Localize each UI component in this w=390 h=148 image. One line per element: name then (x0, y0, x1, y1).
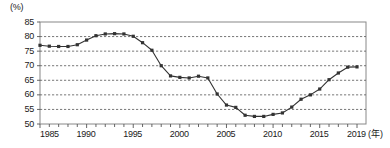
x-axis-label-2005: 2005 (216, 130, 235, 139)
plot-frame (40, 22, 366, 124)
x-axis-label-1985: 1985 (40, 130, 59, 139)
data-point (346, 66, 349, 69)
x-axis-label-2015: 2015 (310, 130, 329, 139)
y-axis-label-50: 50 (14, 120, 34, 129)
x-axis-label-2019: 2019 (347, 130, 366, 139)
data-point (169, 74, 172, 77)
x-axis-unit-label: (年) (368, 130, 383, 139)
data-point (318, 87, 321, 90)
data-point (234, 106, 237, 109)
data-point (309, 93, 312, 96)
data-point (299, 98, 302, 101)
data-point (244, 114, 247, 117)
y-axis-unit-label: (%) (10, 2, 23, 12)
data-point (132, 35, 135, 38)
y-axis-label-75: 75 (14, 47, 34, 56)
y-axis-label-55: 55 (14, 105, 34, 114)
data-point (271, 113, 274, 116)
data-point (188, 76, 191, 79)
data-point (104, 32, 107, 35)
data-point (216, 92, 219, 95)
data-point (122, 32, 125, 35)
data-point (355, 65, 358, 68)
data-point (178, 76, 181, 79)
line-chart: (%) 5055606570758085 1985199019952000200… (0, 0, 390, 148)
data-point (160, 64, 163, 67)
data-point (85, 38, 88, 41)
data-point (150, 49, 153, 52)
x-axis-label-2010: 2010 (263, 130, 282, 139)
data-point (76, 43, 79, 46)
data-point (225, 103, 228, 106)
plot-area (0, 0, 390, 148)
data-point (262, 115, 265, 118)
data-point (141, 41, 144, 44)
data-point (113, 32, 116, 35)
data-point (337, 71, 340, 74)
data-point (197, 75, 200, 78)
data-point (48, 45, 51, 48)
x-axis-label-1995: 1995 (123, 130, 142, 139)
y-axis-label-80: 80 (14, 32, 34, 41)
y-axis-label-85: 85 (14, 18, 34, 27)
data-point (94, 34, 97, 37)
data-point (206, 76, 209, 79)
data-point (38, 44, 41, 47)
y-axis-label-65: 65 (14, 76, 34, 85)
y-axis-label-60: 60 (14, 90, 34, 99)
data-point (57, 45, 60, 48)
data-point (281, 111, 284, 114)
x-axis-label-2000: 2000 (170, 130, 189, 139)
y-axis-label-70: 70 (14, 61, 34, 70)
data-point (253, 115, 256, 118)
data-point (290, 106, 293, 109)
data-point (327, 78, 330, 81)
x-axis-label-1990: 1990 (77, 130, 96, 139)
data-point (66, 45, 69, 48)
